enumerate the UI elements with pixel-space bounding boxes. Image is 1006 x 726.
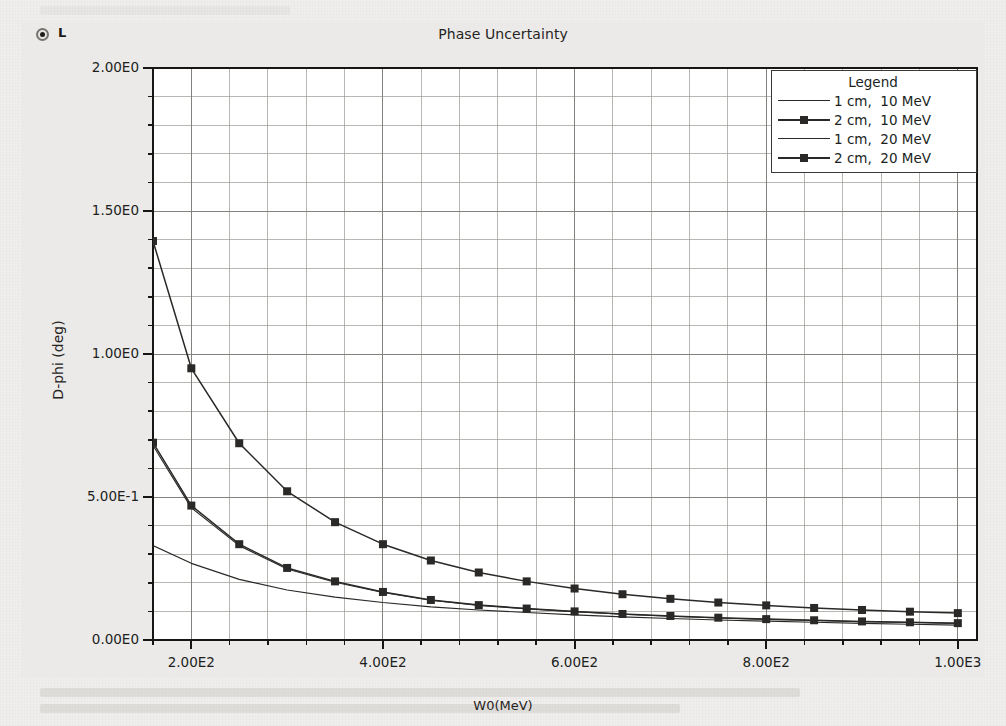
legend-item-label: 2 cm, 10 MeV <box>830 112 931 128</box>
y-tick-label: 2.00E0 <box>49 59 139 75</box>
legend-swatch-icon <box>778 151 830 165</box>
chart-window: L Phase Uncertainty D-phi (deg) W0(MeV) … <box>22 22 984 677</box>
legend-swatch-icon <box>778 94 830 108</box>
y-tick-label: 1.50E0 <box>49 202 139 218</box>
y-tick-label: 1.00E0 <box>49 345 139 361</box>
x-tick-label: 6.00E2 <box>530 654 620 670</box>
legend-item[interactable]: 2 cm, 10 MeV <box>778 110 968 129</box>
x-tick-label: 8.00E2 <box>721 654 811 670</box>
plot-area-wrapper: D-phi (deg) W0(MeV) 2.00E01.50E01.00E05.… <box>22 22 984 677</box>
x-tick-label: 2.00E2 <box>146 654 236 670</box>
legend-item[interactable]: 1 cm, 10 MeV <box>778 91 968 110</box>
y-tick-label: 5.00E-1 <box>49 488 139 504</box>
chart-legend[interactable]: Legend 1 cm, 10 MeV2 cm, 10 MeV1 cm, 20 … <box>771 70 977 173</box>
screenshot-page: L Phase Uncertainty D-phi (deg) W0(MeV) … <box>0 0 1006 726</box>
x-tick-label: 1.00E3 <box>913 654 1003 670</box>
legend-item-label: 1 cm, 20 MeV <box>830 131 931 147</box>
legend-entries: 1 cm, 10 MeV2 cm, 10 MeV1 cm, 20 MeV2 cm… <box>778 91 968 167</box>
legend-title: Legend <box>778 74 968 90</box>
x-axis-title: W0(MeV) <box>22 698 984 713</box>
page-bleed-text <box>40 6 290 15</box>
legend-item[interactable]: 1 cm, 20 MeV <box>778 129 968 148</box>
page-bleed-text <box>40 688 800 697</box>
legend-item-label: 1 cm, 10 MeV <box>830 93 931 109</box>
legend-item-label: 2 cm, 20 MeV <box>830 150 931 166</box>
legend-swatch-icon <box>778 132 830 146</box>
y-tick-label: 0.00E0 <box>49 631 139 647</box>
legend-item[interactable]: 2 cm, 20 MeV <box>778 148 968 167</box>
legend-swatch-icon <box>778 113 830 127</box>
x-tick-label: 4.00E2 <box>338 654 428 670</box>
